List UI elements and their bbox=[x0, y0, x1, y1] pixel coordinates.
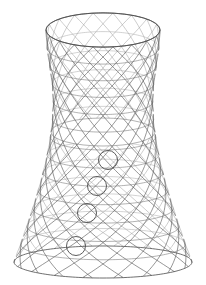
rim-group bbox=[46, 13, 160, 47]
marker-1 bbox=[99, 151, 118, 170]
front-ring-group bbox=[14, 30, 192, 278]
hyperboloid-mesh-svg bbox=[0, 0, 206, 285]
figure-root bbox=[0, 0, 206, 285]
front-helix-group bbox=[14, 30, 192, 278]
marker-4 bbox=[67, 237, 86, 256]
